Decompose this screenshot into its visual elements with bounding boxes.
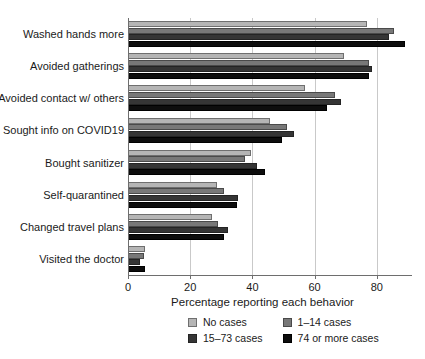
legend-item[interactable]: No cases: [188, 316, 263, 328]
x-axis-line: [128, 275, 412, 276]
legend-swatch-icon: [283, 334, 292, 343]
x-tick-20: [190, 275, 191, 279]
bar: [128, 41, 405, 47]
bar: [128, 137, 282, 143]
chart-legend: No cases1–14 cases15–73 cases74 or more …: [188, 316, 379, 344]
bar: [128, 188, 224, 194]
x-tick-40: [252, 275, 253, 279]
category-label: Bought sanitizer: [45, 157, 124, 169]
bar: [128, 53, 344, 59]
bar: [128, 182, 217, 188]
bar: [128, 131, 294, 137]
gridline-80: [377, 18, 378, 275]
x-tick-label-40: 40: [246, 281, 258, 293]
bar: [128, 259, 140, 265]
legend-label: 1–14 cases: [298, 316, 352, 328]
bar: [128, 73, 369, 79]
legend-swatch-icon: [188, 334, 197, 343]
x-axis-title: Percentage reporting each behavior: [0, 296, 425, 308]
legend-swatch-icon: [188, 318, 197, 327]
legend-item[interactable]: 1–14 cases: [283, 316, 379, 328]
bar: [128, 92, 335, 98]
category-label: Avoided gatherings: [30, 60, 124, 72]
bar: [128, 124, 287, 130]
category-label: Changed travel plans: [20, 221, 124, 233]
bar: [128, 85, 305, 91]
bar: [128, 202, 237, 208]
category-label: Avoided contact w/ others: [0, 92, 124, 104]
bar: [128, 66, 372, 72]
bar: [128, 118, 270, 124]
bar: [128, 21, 367, 27]
category-label: Visited the doctor: [39, 253, 124, 265]
y-axis-line: [128, 18, 129, 275]
bar: [128, 99, 341, 105]
bar-chart: 020406080 Washed hands moreAvoided gathe…: [0, 0, 425, 359]
category-label: Washed hands more: [23, 28, 124, 40]
x-tick-label-20: 20: [184, 281, 196, 293]
legend-label: 15–73 cases: [203, 332, 263, 344]
bar: [128, 253, 144, 259]
bar: [128, 266, 145, 272]
bar: [128, 34, 389, 40]
bar: [128, 60, 369, 66]
category-label: Self-quarantined: [43, 189, 124, 201]
bar: [128, 246, 145, 252]
x-tick-label-80: 80: [371, 281, 383, 293]
bar: [128, 214, 212, 220]
bar: [128, 169, 265, 175]
bar: [128, 156, 245, 162]
legend-label: No cases: [203, 316, 247, 328]
y-axis-category-labels: Washed hands moreAvoided gatheringsAvoid…: [0, 18, 124, 275]
x-tick-0: [128, 275, 129, 279]
bar: [128, 150, 251, 156]
legend-item[interactable]: 74 or more cases: [283, 332, 379, 344]
bar: [128, 234, 224, 240]
legend-item[interactable]: 15–73 cases: [188, 332, 263, 344]
bar: [128, 28, 394, 34]
legend-label: 74 or more cases: [298, 332, 379, 344]
x-tick-label-60: 60: [308, 281, 320, 293]
bar: [128, 195, 238, 201]
x-axis-title-text: Percentage reporting each behavior: [71, 296, 354, 308]
x-tick-label-0: 0: [125, 281, 131, 293]
bar: [128, 227, 228, 233]
x-tick-60: [315, 275, 316, 279]
bar: [128, 105, 327, 111]
legend-swatch-icon: [283, 318, 292, 327]
plot-area: [128, 18, 411, 275]
bar: [128, 163, 257, 169]
bar: [128, 221, 218, 227]
x-tick-80: [377, 275, 378, 279]
category-label: Sought info on COVID19: [3, 124, 124, 136]
